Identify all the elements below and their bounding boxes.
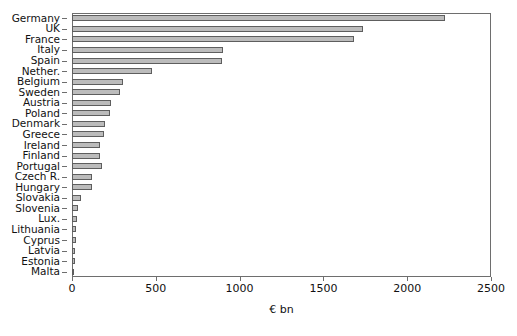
- bar-row: [72, 140, 491, 151]
- x-tick-mark: [240, 277, 241, 281]
- bar: [72, 121, 105, 127]
- category-tick: [62, 145, 67, 146]
- bar-row: [72, 34, 491, 45]
- bar: [72, 26, 363, 32]
- category-tick: [62, 124, 67, 125]
- category-label-malta: Malta: [31, 266, 60, 277]
- bar-row: [72, 245, 491, 256]
- bar: [72, 174, 92, 180]
- bar: [72, 153, 100, 159]
- category-axis: GermanyUKFranceItalySpainNether.BelgiumS…: [0, 13, 67, 277]
- x-axis-title: € bn: [72, 303, 491, 316]
- category-tick: [62, 177, 67, 178]
- category-tick: [62, 29, 67, 30]
- bar: [72, 216, 77, 222]
- bar: [72, 258, 75, 264]
- category-tick: [62, 103, 67, 104]
- x-tick-mark: [156, 277, 157, 281]
- bar: [72, 47, 223, 53]
- x-tick-mark: [491, 277, 492, 281]
- bar-row: [72, 76, 491, 87]
- x-tick-mark: [72, 277, 73, 281]
- bar: [72, 237, 76, 243]
- bar: [72, 58, 222, 64]
- x-tick-mark: [407, 277, 408, 281]
- bar-row: [72, 45, 491, 56]
- bar-chart: GermanyUKFranceItalySpainNether.BelgiumS…: [0, 0, 517, 336]
- category-label-greece: Greece: [23, 129, 60, 140]
- category-label-finland: Finland: [22, 150, 60, 161]
- category-tick: [62, 113, 67, 114]
- bar: [72, 205, 78, 211]
- bar-row: [72, 193, 491, 204]
- x-tick-label-2500: 2500: [477, 283, 505, 295]
- category-tick: [62, 166, 67, 167]
- bar-row: [72, 150, 491, 161]
- category-tick: [62, 219, 67, 220]
- bar-row: [72, 161, 491, 172]
- category-tick: [62, 272, 67, 273]
- bar: [72, 131, 104, 137]
- bar: [72, 15, 445, 21]
- bar-row: [72, 108, 491, 119]
- category-label-lithuania: Lithuania: [11, 224, 60, 235]
- bar: [72, 100, 111, 106]
- bar: [72, 110, 110, 116]
- bar: [72, 195, 81, 201]
- bar-row: [72, 55, 491, 66]
- category-tick: [62, 18, 67, 19]
- category-tick: [62, 50, 67, 51]
- bar: [72, 184, 92, 190]
- x-tick-label-1500: 1500: [309, 283, 337, 295]
- category-tick: [62, 39, 67, 40]
- bar-row: [72, 256, 491, 267]
- x-tick-label-500: 500: [145, 283, 166, 295]
- category-tick: [62, 187, 67, 188]
- x-tick-label-1000: 1000: [226, 283, 254, 295]
- bar-row: [72, 129, 491, 140]
- bar: [72, 68, 152, 74]
- x-tick-label-2000: 2000: [393, 283, 421, 295]
- category-tick: [62, 61, 67, 62]
- category-tick: [62, 208, 67, 209]
- category-tick: [62, 92, 67, 93]
- category-tick: [62, 198, 67, 199]
- category-label-spain: Spain: [31, 55, 60, 66]
- bar: [72, 163, 102, 169]
- bar-row: [72, 214, 491, 225]
- bar-row: [72, 97, 491, 108]
- x-tick-mark: [323, 277, 324, 281]
- bar-row: [72, 266, 491, 277]
- category-tick: [62, 134, 67, 135]
- bar-row: [72, 182, 491, 193]
- bar: [72, 269, 74, 275]
- value-axis: 05001000150020002500: [72, 277, 491, 301]
- bar: [72, 226, 76, 232]
- bar: [72, 142, 100, 148]
- category-tick: [62, 251, 67, 252]
- bar-row: [72, 87, 491, 98]
- bar-row: [72, 171, 491, 182]
- bar: [72, 36, 354, 42]
- category-tick: [62, 261, 67, 262]
- category-tick: [62, 71, 67, 72]
- bar-row: [72, 203, 491, 214]
- bar: [72, 248, 75, 254]
- bar-row: [72, 235, 491, 246]
- category-tick: [62, 229, 67, 230]
- category-tick: [62, 240, 67, 241]
- bar-row: [72, 66, 491, 77]
- bar: [72, 79, 123, 85]
- bar-row: [72, 119, 491, 130]
- bar-row: [72, 24, 491, 35]
- category-tick: [62, 82, 67, 83]
- bar-row: [72, 224, 491, 235]
- x-tick-label-0: 0: [69, 283, 76, 295]
- bar-row: [72, 13, 491, 24]
- category-tick: [62, 156, 67, 157]
- bars-container: [72, 13, 491, 277]
- bar: [72, 89, 120, 95]
